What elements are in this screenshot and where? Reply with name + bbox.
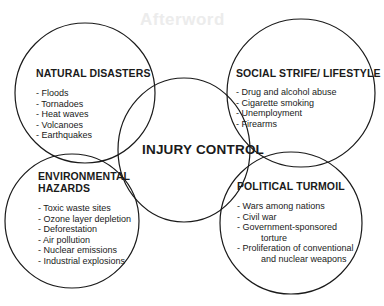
list-item: - Unemployment (236, 108, 381, 119)
political-turmoil-group: POLITICAL TURMOIL - Wars among nations -… (237, 180, 354, 265)
list-item: - Heat waves (36, 109, 150, 120)
list-item: - Tornadoes (36, 99, 150, 110)
environmental-hazards-title-line1: ENVIRONMENTAL (38, 170, 131, 182)
natural-disasters-title: NATURAL DISASTERS (36, 67, 150, 79)
list-item: - Proliferation of conventional (237, 243, 354, 254)
injury-control-label: INJURY CONTROL (142, 142, 264, 157)
list-item: - Government-sponsored (237, 222, 354, 233)
list-item: - Civil war (237, 212, 354, 223)
list-item: - Toxic waste sites (38, 203, 131, 214)
list-item: - Earthquakes (36, 130, 150, 141)
natural-disasters-group: NATURAL DISASTERS - Floods - Tornadoes -… (36, 67, 150, 141)
list-item: - Industrial explosions (38, 256, 131, 267)
social-strife-title: SOCIAL STRIFE/ LIFESTYLE (236, 67, 381, 79)
environmental-hazards-group: ENVIRONMENTAL HAZARDS - Toxic waste site… (38, 170, 131, 267)
list-item-continuation: torture (237, 233, 354, 244)
list-item: - Floods (36, 88, 150, 99)
social-strife-list: - Drug and alcohol abuse - Cigarette smo… (236, 87, 381, 129)
list-item-continuation: and nuclear weapons (237, 254, 354, 265)
list-item: - Nuclear emissions (38, 245, 131, 256)
list-item: - Drug and alcohol abuse (236, 87, 381, 98)
list-item: - Volcanoes (36, 120, 150, 131)
list-item: - Deforestation (38, 224, 131, 235)
list-item: - Firearms (236, 119, 381, 130)
natural-disasters-list: - Floods - Tornadoes - Heat waves - Volc… (36, 88, 150, 141)
list-item: - Wars among nations (237, 201, 354, 212)
political-turmoil-title: POLITICAL TURMOIL (237, 180, 354, 192)
social-strife-group: SOCIAL STRIFE/ LIFESTYLE - Drug and alco… (236, 67, 381, 129)
environmental-hazards-list: - Toxic waste sites - Ozone layer deplet… (38, 203, 131, 267)
list-item: - Air pollution (38, 235, 131, 246)
environmental-hazards-title-line2: HAZARDS (38, 182, 131, 194)
political-turmoil-list: - Wars among nations - Civil war - Gover… (237, 201, 354, 265)
list-item: - Cigarette smoking (236, 98, 381, 109)
list-item: - Ozone layer depletion (38, 214, 131, 225)
